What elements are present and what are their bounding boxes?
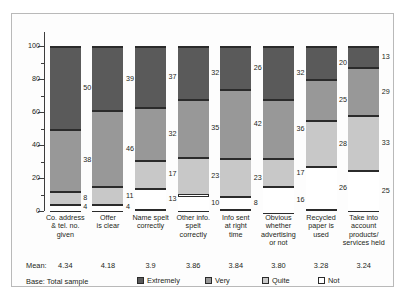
bar-segment[interactable] [220,47,251,90]
bar-segment[interactable] [306,80,337,121]
mean-value: 3.24 [342,262,385,269]
base-and-legend-row: Base: Total sample ExtremelyVeryQuiteNot [12,276,393,290]
bar-segment-value-label: 17 [296,169,304,176]
legend-label: Extremely [147,276,180,285]
category-label-line: correctly [170,231,217,239]
bar-segment-value-label: 32 [211,69,219,76]
bar-column[interactable] [263,46,294,211]
bar-segment[interactable] [263,100,294,159]
bar-segment-value-label: 17 [169,170,177,177]
legend-item-not[interactable]: Not [318,276,340,285]
bar-segment-value-label: 16 [296,196,304,203]
bar-segment-value-label: 10 [211,199,219,206]
bar-segment-value-label: 32 [169,130,177,137]
bar-segment[interactable] [348,47,379,68]
bar-column[interactable] [178,46,209,211]
bar-segment[interactable] [220,90,251,159]
bar-segment[interactable] [135,108,166,161]
y-axis-labels: 020406080100 [12,14,40,286]
legend-label: Not [328,276,340,285]
bar-segment-value-label: 38 [83,156,91,163]
bar-segment[interactable] [178,196,209,213]
x-axis-category-label: Other info.speltcorrectly [170,214,217,239]
bar-segment-value-label: 13 [169,195,177,202]
mean-value: 3.80 [257,262,300,269]
bar-segment-value-label: 50 [83,84,91,91]
bar-segment[interactable] [135,189,166,210]
bar-segment-value-label: 25 [382,187,390,194]
x-axis-category-label: Obviouswhetheradvertisingor not [255,214,302,248]
legend-swatch-icon [318,277,325,284]
bar-segment-value-label: 37 [169,73,177,80]
bar-column[interactable] [50,46,81,211]
stacked-bar[interactable] [50,46,81,211]
stacked-bar[interactable] [348,46,379,211]
bar-column[interactable] [92,46,123,211]
bar-column[interactable] [306,46,337,211]
mean-value: 3.84 [215,262,258,269]
bar-segment-value-label: 26 [339,184,347,191]
bar-segment[interactable] [348,116,379,170]
bar-segment[interactable] [306,121,337,167]
mean-value: 3.28 [300,262,343,269]
bar-segment[interactable] [92,111,123,187]
bar-segment[interactable] [50,205,81,212]
stacked-bar[interactable] [135,46,166,211]
stacked-bar[interactable] [92,46,123,211]
bar-segment-value-label: 36 [296,125,304,132]
mean-value: 4.18 [87,262,130,269]
bar-segment[interactable] [348,171,379,212]
bar-segment[interactable] [178,100,209,158]
stacked-bar[interactable] [220,46,251,211]
stacked-bar[interactable] [178,46,209,211]
bar-segment[interactable] [263,159,294,187]
bar-segment-value-label: 42 [254,120,262,127]
mean-value: 4.34 [44,262,87,269]
bar-segment[interactable] [263,47,294,100]
y-axis-tick-major [38,211,44,212]
bar-segment[interactable] [92,187,123,205]
bar-segment-value-label: 8 [83,194,87,201]
bar-segment[interactable] [135,47,166,108]
bar-segment[interactable] [306,47,337,80]
bar-column[interactable] [348,46,379,211]
legend-item-quite[interactable]: Quite [262,276,290,285]
bar-segment-value-label: 46 [126,145,134,152]
stacked-bar[interactable] [306,46,337,211]
bar-segment[interactable] [50,192,81,205]
bar-segment[interactable] [348,68,379,116]
category-label-line: used [298,231,345,239]
bar-segment[interactable] [50,47,81,130]
bar-segment[interactable] [220,197,251,210]
bar-segment[interactable] [306,167,337,210]
legend-swatch-icon [137,277,144,284]
bar-series-group: 5038843946114373217133235231026422383236… [44,46,383,211]
x-axis-category-label: Take intoaccountproducts/services held [340,214,387,248]
legend-item-very[interactable]: Very [205,276,230,285]
category-label-line: or not [255,239,302,247]
bar-segment-value-label: 23 [254,174,262,181]
y-axis-tick-label: 100 [18,42,40,49]
bar-segment[interactable] [263,187,294,213]
bar-segment-value-label: 33 [382,139,390,146]
category-label-line: correctly [127,222,174,230]
plot-area: 020406080100 503884394611437321713323523… [12,14,393,286]
bar-column[interactable] [220,46,251,211]
y-axis-tick-label: 40 [18,141,40,148]
legend-label: Very [215,276,230,285]
bar-segment-value-label: 23 [211,172,219,179]
mean-value: 3.9 [129,262,172,269]
bar-segment-value-label: 35 [211,124,219,131]
mean-value: 3.86 [172,262,215,269]
bar-segment[interactable] [178,47,209,100]
bar-segment[interactable] [92,205,123,212]
legend-label: Quite [272,276,290,285]
bar-segment[interactable] [220,159,251,197]
legend-item-extremely[interactable]: Extremely [137,276,180,285]
bar-segment[interactable] [135,161,166,189]
bar-segment[interactable] [50,130,81,193]
bar-segment[interactable] [178,158,209,196]
bar-column[interactable] [135,46,166,211]
stacked-bar[interactable] [263,46,294,211]
bar-segment[interactable] [92,47,123,111]
